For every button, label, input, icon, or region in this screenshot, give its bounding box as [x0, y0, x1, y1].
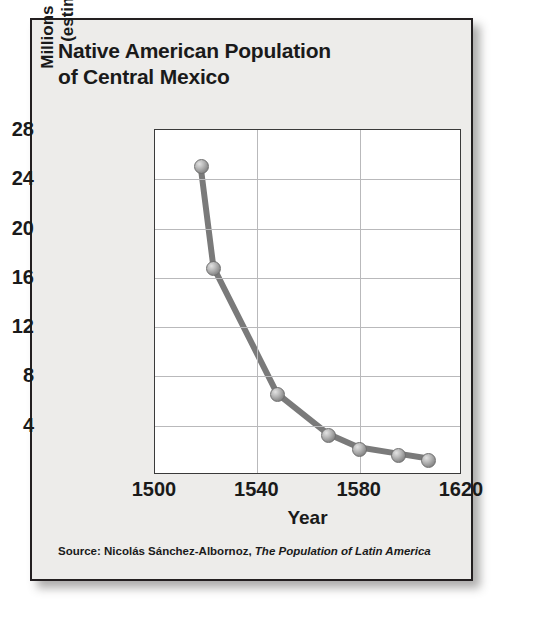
- gridline-horizontal: [155, 327, 460, 328]
- y-axis-tick-label: 20: [0, 216, 34, 239]
- x-axis-tick-label: 1580: [314, 478, 404, 501]
- y-axis-tick-label: 4: [0, 413, 34, 436]
- gridline-horizontal: [155, 229, 460, 230]
- source-prefix: Source: Nicolás Sánchez-Albornoz,: [58, 545, 255, 557]
- y-axis-tick-label: 24: [0, 167, 34, 190]
- page-title: Native American Population of Central Me…: [58, 38, 448, 89]
- gridline-horizontal: [155, 426, 460, 427]
- population-line-series: [155, 130, 460, 473]
- x-axis-tick-label: 1620: [416, 478, 506, 501]
- plot-area: [154, 129, 461, 474]
- y-axis-tick-label: 28: [0, 118, 34, 141]
- data-point-marker: [421, 453, 436, 468]
- y-axis-tick-label: 12: [0, 315, 34, 338]
- source-book-title: The Population of Latin America: [255, 545, 431, 557]
- source-note: Source: Nicolás Sánchez-Albornoz, The Po…: [58, 544, 458, 560]
- data-point-marker: [391, 448, 406, 463]
- figure-card: Native American Population of Central Me…: [30, 18, 473, 581]
- x-axis-tick-label: 1540: [211, 478, 301, 501]
- gridline-vertical: [360, 130, 361, 473]
- gridline-horizontal: [155, 179, 460, 180]
- gridline-horizontal: [155, 278, 460, 279]
- y-axis-title: Millions of People (estimated): [38, 0, 78, 169]
- gridline-vertical: [257, 130, 258, 473]
- y-axis-tick-label: 16: [0, 265, 34, 288]
- data-point-marker: [352, 442, 367, 457]
- data-point-marker: [194, 159, 209, 174]
- y-axis-tick-label: 8: [0, 364, 34, 387]
- plot-inner: [155, 130, 460, 473]
- data-point-marker: [206, 261, 221, 276]
- x-axis-tick-label: 1500: [109, 478, 199, 501]
- gridline-horizontal: [155, 376, 460, 377]
- x-axis-title: Year: [154, 507, 461, 529]
